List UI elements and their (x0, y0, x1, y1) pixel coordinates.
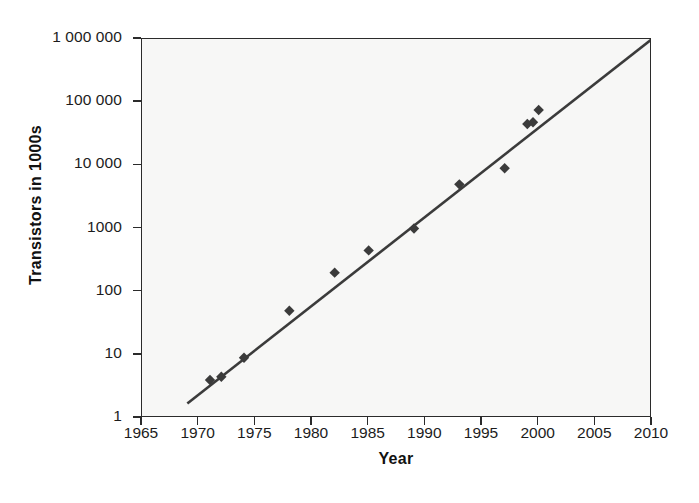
x-tick-label: 2005 (577, 424, 611, 442)
x-tick-label: 1995 (464, 424, 498, 442)
x-tick-label: 1975 (237, 424, 271, 442)
x-tick-mark (310, 417, 312, 425)
trend-line (187, 39, 651, 403)
x-tick-label: 2000 (520, 424, 554, 442)
x-tick-mark (594, 417, 596, 425)
chart-figure: 110100100010 000100 0001 000 000 1965197… (0, 0, 699, 503)
x-tick-mark (197, 417, 199, 425)
x-axis-title: Year (141, 450, 651, 468)
y-axis-title: Transistors in 1000s (27, 85, 45, 325)
data-point-marker (533, 105, 543, 115)
x-tick-label: 1990 (407, 424, 441, 442)
x-tick-label: 1980 (294, 424, 328, 442)
x-tick-mark (254, 417, 256, 425)
data-point-marker (409, 223, 419, 233)
y-tick-mark (133, 37, 141, 39)
x-tick-label: 2010 (634, 424, 668, 442)
x-tick-label: 1985 (350, 424, 384, 442)
plot-canvas (142, 39, 651, 417)
x-tick-mark (424, 417, 426, 425)
data-point-marker (363, 245, 373, 255)
x-tick-mark (650, 417, 652, 425)
data-point-marker (284, 305, 294, 315)
y-tick-mark (133, 227, 141, 229)
y-tick-mark (133, 100, 141, 102)
y-tick-mark (133, 164, 141, 166)
plot-area (141, 38, 651, 417)
data-point-marker (329, 267, 339, 277)
x-tick-label: 1965 (124, 424, 158, 442)
x-tick-label: 1970 (180, 424, 214, 442)
y-tick-mark (133, 353, 141, 355)
x-tick-mark (367, 417, 369, 425)
x-tick-mark (480, 417, 482, 425)
x-tick-mark (140, 417, 142, 425)
x-tick-mark (537, 417, 539, 425)
y-tick-mark (133, 290, 141, 292)
y-tick-mark (133, 416, 141, 418)
data-point-marker (499, 163, 509, 173)
